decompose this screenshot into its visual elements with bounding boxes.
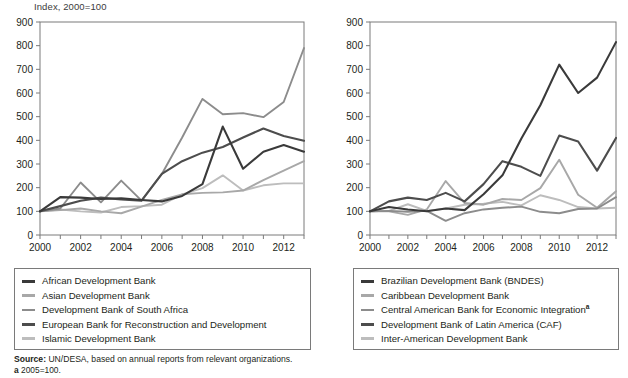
svg-text:2006: 2006 (151, 242, 174, 253)
svg-text:2000: 2000 (359, 242, 382, 253)
svg-text:2004: 2004 (110, 242, 133, 253)
legend-item-label: Central American Bank for Economic Integ… (381, 305, 589, 315)
legend-item[interactable]: Caribbean Development Bank (361, 288, 611, 302)
svg-text:800: 800 (346, 40, 363, 51)
svg-text:900: 900 (346, 17, 363, 28)
source-text: UN/DESA, based on annual reports from re… (48, 354, 292, 364)
legend-swatch (361, 294, 374, 297)
legend-swatch (361, 280, 374, 283)
source-label: Source: (14, 354, 46, 364)
svg-text:500: 500 (346, 111, 363, 122)
axis-title-index: Index, 2000=100 (34, 1, 107, 12)
footnote-line: a 2005=100. (14, 365, 293, 377)
svg-text:200: 200 (346, 182, 363, 193)
source-line: Source: UN/DESA, based on annual reports… (14, 353, 293, 365)
panel-left: Index, 2000=100 010020030040050060070080… (0, 0, 330, 378)
svg-text:2000: 2000 (29, 242, 52, 253)
figure-dual-line-charts: Index, 2000=100 010020030040050060070080… (0, 0, 628, 378)
footnote-text: 2005=100. (21, 365, 61, 375)
legend-item[interactable]: Central American Bank for Economic Integ… (361, 303, 611, 317)
legend-swatch (22, 280, 35, 283)
legend-swatch (361, 309, 374, 312)
svg-text:100: 100 (346, 206, 363, 217)
svg-text:900: 900 (16, 17, 33, 28)
legend-item-label: African Development Bank (42, 276, 156, 286)
legend-swatch (361, 323, 374, 326)
line-chart-left: 0100200300400500600700800900200020022004… (0, 14, 320, 259)
legend-swatch (22, 309, 35, 312)
plot-area-right: 0100200300400500600700800900200020022004… (330, 14, 628, 259)
legend-swatch (22, 323, 35, 326)
svg-text:300: 300 (346, 159, 363, 170)
legend-swatch (22, 337, 35, 340)
svg-text:200: 200 (16, 182, 33, 193)
svg-text:2008: 2008 (191, 242, 214, 253)
svg-text:0: 0 (357, 230, 363, 241)
legend-left: African Development Bank Asian Developme… (14, 268, 311, 350)
svg-text:300: 300 (16, 159, 33, 170)
svg-text:500: 500 (16, 111, 33, 122)
plot-area-left: 0100200300400500600700800900200020022004… (0, 14, 320, 259)
legend-item-label: Development Bank of South Africa (42, 305, 188, 315)
svg-text:600: 600 (16, 88, 33, 99)
svg-text:2004: 2004 (435, 242, 458, 253)
source-note: Source: UN/DESA, based on annual reports… (14, 353, 293, 377)
svg-text:700: 700 (346, 64, 363, 75)
legend-item[interactable]: Islamic Development Bank (22, 332, 303, 346)
svg-text:2010: 2010 (232, 242, 255, 253)
legend-item[interactable]: Development Bank of Latin America (CAF) (361, 317, 611, 331)
svg-text:600: 600 (346, 88, 363, 99)
legend-item-label: Caribbean Development Bank (381, 291, 509, 301)
svg-text:400: 400 (16, 135, 33, 146)
panel-right: 0100200300400500600700800900200020022004… (330, 0, 628, 378)
legend-right: Brazilian Development Bank (BNDES) Carib… (353, 268, 619, 350)
legend-item-label: Brazilian Development Bank (BNDES) (381, 276, 544, 286)
legend-item-label: Islamic Development Bank (42, 334, 156, 344)
svg-text:2006: 2006 (472, 242, 495, 253)
svg-text:100: 100 (16, 206, 33, 217)
legend-item[interactable]: Brazilian Development Bank (BNDES) (361, 274, 611, 288)
legend-item[interactable]: Development Bank of South Africa (22, 303, 303, 317)
svg-text:400: 400 (346, 135, 363, 146)
legend-item-label: Development Bank of Latin America (CAF) (381, 320, 562, 330)
legend-item[interactable]: African Development Bank (22, 274, 303, 288)
legend-item-label: European Bank for Reconstruction and Dev… (42, 320, 267, 330)
svg-text:700: 700 (16, 64, 33, 75)
legend-item[interactable]: European Bank for Reconstruction and Dev… (22, 317, 303, 331)
footnote-marker: a (14, 365, 19, 375)
legend-item[interactable]: Inter-American Development Bank (361, 332, 611, 346)
svg-text:2002: 2002 (397, 242, 420, 253)
legend-item[interactable]: Asian Development Bank (22, 288, 303, 302)
line-chart-right: 0100200300400500600700800900200020022004… (330, 14, 628, 259)
svg-text:2002: 2002 (69, 242, 92, 253)
legend-swatch (22, 294, 35, 297)
legend-item-label: Inter-American Development Bank (381, 334, 528, 344)
legend-item-label: Asian Development Bank (42, 291, 150, 301)
svg-text:0: 0 (27, 230, 33, 241)
svg-text:2008: 2008 (510, 242, 533, 253)
svg-text:2012: 2012 (586, 242, 609, 253)
svg-text:2012: 2012 (273, 242, 296, 253)
svg-text:800: 800 (16, 40, 33, 51)
legend-swatch (361, 337, 374, 340)
svg-text:2010: 2010 (548, 242, 571, 253)
